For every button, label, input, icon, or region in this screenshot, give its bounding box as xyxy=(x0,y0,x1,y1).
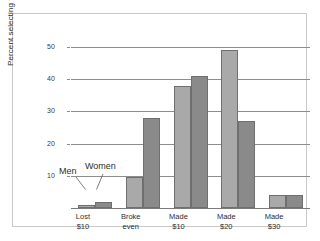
y-tick-mark-20 xyxy=(67,144,70,145)
bar-women-2 xyxy=(191,76,208,208)
x-category-label-line1-2: Made xyxy=(154,212,204,222)
y-tick-label-50: 50 xyxy=(35,43,55,50)
x-category-label-4: Made$30 xyxy=(249,212,299,231)
gridline-50 xyxy=(71,47,310,48)
x-category-label-line2-2: $10 xyxy=(154,222,204,232)
y-tick-mark-40 xyxy=(67,79,70,80)
x-category-label-line1-0: Lost xyxy=(58,212,108,222)
x-category-label-line2-4: $30 xyxy=(249,222,299,232)
bar-women-4 xyxy=(286,195,303,208)
y-tick-label-20: 20 xyxy=(35,140,55,147)
bar-men-1 xyxy=(126,177,143,208)
bar-men-0 xyxy=(78,205,95,208)
y-tick-label-30: 30 xyxy=(35,107,55,114)
x-category-label-1: Brokeeven xyxy=(106,212,156,231)
x-category-label-line2-0: $10 xyxy=(58,222,108,232)
y-axis-title: Percent selecting the solution xyxy=(6,0,15,66)
bar-men-3 xyxy=(221,50,238,208)
x-category-label-line1-3: Made xyxy=(201,212,251,222)
x-category-label-line2-1: even xyxy=(106,222,156,232)
bar-women-1 xyxy=(143,118,160,208)
bar-women-3 xyxy=(238,121,255,208)
x-category-label-line1-1: Broke xyxy=(106,212,156,222)
y-tick-label-40: 40 xyxy=(35,75,55,82)
bar-men-4 xyxy=(269,195,286,208)
x-category-label-line1-4: Made xyxy=(249,212,299,222)
chart-figure: Percent selecting the solution 102030405… xyxy=(0,0,320,241)
bar-women-0 xyxy=(95,202,112,208)
annotation-men: Men xyxy=(59,166,77,176)
x-category-label-0: Lost$10 xyxy=(58,212,108,231)
y-tick-label-10: 10 xyxy=(35,172,55,179)
x-axis-line xyxy=(71,208,310,209)
y-tick-mark-30 xyxy=(67,111,70,112)
annotation-women: Women xyxy=(85,161,116,171)
x-category-label-3: Made$20 xyxy=(201,212,251,231)
x-category-label-line2-3: $20 xyxy=(201,222,251,232)
y-tick-mark-50 xyxy=(67,47,70,48)
x-category-label-2: Made$10 xyxy=(154,212,204,231)
bar-men-2 xyxy=(174,86,191,208)
figure-frame: Percent selecting the solution 102030405… xyxy=(12,13,307,227)
plot-area xyxy=(71,47,310,208)
